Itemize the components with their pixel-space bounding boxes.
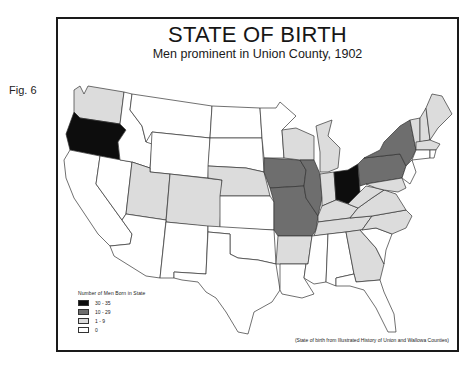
legend-swatch-dark-gray — [78, 309, 89, 315]
state-north-dakota — [210, 106, 262, 138]
legend-swatch-white — [78, 327, 89, 333]
map-frame: STATE OF BIRTH Men prominent in Union Co… — [56, 17, 459, 352]
legend-swatch-light-gray — [78, 318, 89, 324]
figure-label: Fig. 6 — [9, 84, 37, 96]
state-massachusetts — [416, 140, 440, 150]
state-wyoming — [150, 132, 210, 178]
legend-item-10-29: 10 - 29 — [78, 308, 145, 316]
state-maine — [426, 94, 452, 140]
legend-item-0: 0 — [78, 326, 145, 334]
state-colorado — [166, 174, 222, 228]
state-michigan — [316, 120, 340, 172]
legend-label: 0 — [95, 327, 98, 333]
map-legend: Number of Men Born in State 30 - 35 10 -… — [78, 290, 145, 335]
state-rhode-island — [430, 150, 436, 158]
legend-label: 30 - 35 — [95, 300, 111, 306]
legend-item-1-9: 1 - 9 — [78, 317, 145, 325]
legend-label: 1 - 9 — [95, 318, 105, 324]
legend-item-30-35: 30 - 35 — [78, 299, 145, 307]
state-florida — [336, 274, 396, 332]
state-kansas — [220, 196, 274, 230]
state-new-mexico — [160, 222, 208, 278]
legend-title: Number of Men Born in State — [78, 290, 145, 296]
legend-label: 10 - 29 — [95, 309, 111, 315]
state-iowa — [264, 158, 306, 188]
source-note: (State of birth from Illustrated History… — [295, 337, 449, 343]
legend-swatch-black — [78, 300, 89, 306]
state-arkansas — [276, 236, 312, 264]
state-wisconsin — [282, 128, 314, 160]
